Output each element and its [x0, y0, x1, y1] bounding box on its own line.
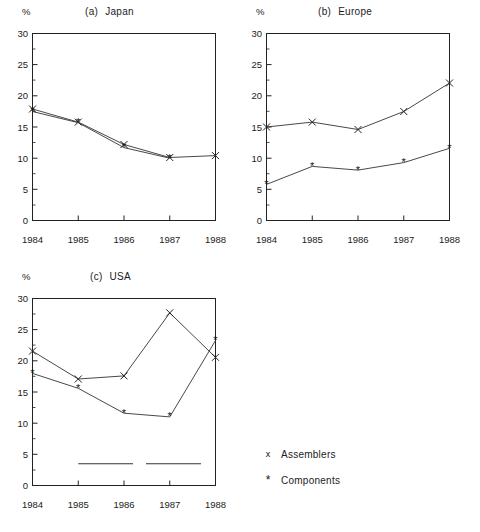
svg-text:*: *	[122, 141, 127, 153]
plot-svg-usa: 0 5 10 15 20 25 30 1984 1985 1986 1987 1…	[0, 265, 240, 525]
x-axis-europe: 1984 1985 1986 1987 1988	[256, 216, 460, 246]
chart-panel-japan: % (a)Japan 0 5	[0, 0, 240, 258]
star-marker-icon: *	[255, 476, 281, 484]
chart-legend: x Assemblers * Components	[255, 448, 340, 500]
legend-item-components: * Components	[255, 474, 340, 486]
panel-title-usa: (c)USA	[90, 271, 131, 282]
y-tick-15: 15	[251, 122, 262, 133]
legend-item-assemblers: x Assemblers	[255, 448, 340, 460]
y-tick-20: 20	[17, 90, 28, 101]
x-tick-1988: 1988	[439, 234, 460, 245]
data-markers-assemblers	[29, 309, 219, 382]
panel-tag: (a)	[85, 6, 98, 17]
svg-text:*: *	[76, 116, 81, 128]
x-tick-1985: 1985	[68, 499, 89, 510]
y-tick-20: 20	[251, 90, 262, 101]
y-tick-0: 0	[257, 215, 262, 226]
panel-title-europe: (b)Europe	[318, 6, 372, 17]
svg-text:*: *	[402, 156, 407, 168]
y-tick-25: 25	[17, 324, 28, 335]
x-tick-1986: 1986	[113, 499, 134, 510]
x-tick-1986: 1986	[113, 234, 134, 245]
legend-label-components: Components	[281, 475, 340, 486]
series-components-usa: * * * * *	[30, 334, 218, 422]
data-markers-components: * * * *	[30, 105, 172, 164]
y-tick-5: 5	[23, 449, 28, 460]
y-tick-15: 15	[17, 122, 28, 133]
y-axis-japan: 0 5 10 15 20 25 30	[17, 28, 37, 226]
svg-text:*: *	[168, 152, 173, 164]
cross-marker-icon: x	[255, 449, 281, 459]
series-assemblers-usa	[29, 309, 219, 382]
x-axis-japan: 1984 1985 1986 1987 1988	[22, 216, 226, 246]
x-tick-1984: 1984	[22, 234, 43, 245]
series-assemblers-europe	[263, 80, 453, 134]
svg-text:*: *	[76, 382, 81, 394]
y-tick-5: 5	[257, 184, 262, 195]
svg-text:*: *	[213, 334, 218, 346]
x-tick-1985: 1985	[68, 234, 89, 245]
data-markers-components: * * * * *	[264, 142, 452, 190]
svg-text:*: *	[447, 142, 452, 154]
y-tick-25: 25	[251, 59, 262, 70]
x-tick-1988: 1988	[205, 499, 226, 510]
y-tick-0: 0	[23, 480, 28, 491]
plot-frame	[267, 34, 450, 221]
x-tick-1984: 1984	[256, 234, 277, 245]
y-axis-unit-label: %	[22, 271, 31, 282]
y-tick-25: 25	[17, 59, 28, 70]
svg-text:*: *	[122, 407, 127, 419]
x-axis-usa: 1984 1985 1986 1987 1988	[22, 481, 226, 511]
y-axis-usa: 0 5 10 15 20 25 30	[17, 293, 37, 491]
y-tick-10: 10	[17, 418, 28, 429]
x-tick-1987: 1987	[159, 234, 180, 245]
panel-name: Europe	[338, 6, 372, 17]
plot-svg-europe: 0 5 10 15 20 25 30 1984 1985 1986 1987 1…	[240, 0, 480, 258]
legend-label-assemblers: Assemblers	[281, 449, 336, 460]
svg-text:*: *	[30, 367, 35, 379]
y-tick-10: 10	[17, 153, 28, 164]
x-tick-1987: 1987	[393, 234, 414, 245]
panel-title-japan: (a)Japan	[85, 6, 134, 17]
svg-text:*: *	[168, 410, 173, 422]
x-tick-1986: 1986	[347, 234, 368, 245]
data-markers-components: * * * * *	[30, 334, 218, 422]
svg-text:*: *	[264, 178, 269, 190]
x-tick-1987: 1987	[159, 499, 180, 510]
plot-frame	[33, 299, 216, 486]
y-tick-30: 30	[17, 28, 28, 39]
y-tick-15: 15	[17, 387, 28, 398]
figure-sheet: % (a)Japan 0 5	[0, 0, 480, 532]
y-tick-0: 0	[23, 215, 28, 226]
y-tick-20: 20	[17, 355, 28, 366]
y-tick-30: 30	[251, 28, 262, 39]
y-tick-5: 5	[23, 184, 28, 195]
svg-text:*: *	[356, 164, 361, 176]
panel-tag: (c)	[90, 271, 103, 282]
x-tick-1988: 1988	[205, 234, 226, 245]
x-tick-1985: 1985	[302, 234, 323, 245]
svg-text:*: *	[30, 105, 35, 117]
series-components-europe: * * * * *	[264, 142, 452, 190]
x-tick-1984: 1984	[22, 499, 43, 510]
svg-text:*: *	[310, 160, 315, 172]
plot-svg-japan: 0 5 10 15 20 25 30 1984 1985 1986 1987 1…	[0, 0, 240, 258]
y-axis-unit-label: %	[22, 6, 31, 17]
y-tick-10: 10	[251, 153, 262, 164]
panel-name: USA	[110, 271, 131, 282]
series-components-japan: * * * *	[30, 105, 172, 164]
chart-panel-europe: % (b)Europe 0 5 10	[240, 0, 480, 258]
plot-frame	[33, 34, 216, 221]
y-tick-30: 30	[17, 293, 28, 304]
data-markers-assemblers	[263, 80, 453, 134]
panel-tag: (b)	[318, 6, 331, 17]
panel-name: Japan	[105, 6, 134, 17]
chart-panel-usa: % (c)USA 0 5 10	[0, 265, 240, 525]
y-axis-unit-label: %	[256, 6, 265, 17]
